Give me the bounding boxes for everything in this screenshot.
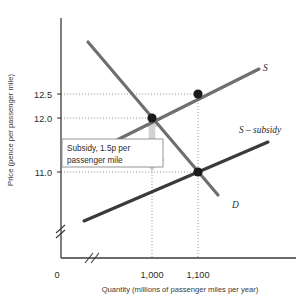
origin-label: 0 <box>54 270 59 280</box>
chart-canvas: 12.5 12.0 11.0 0 1,000 1,100 Quantity (m… <box>0 0 302 298</box>
x-axis-title: Quantity (millions of passenger miles pe… <box>102 285 259 294</box>
curve-label-supply: S <box>263 63 268 73</box>
supply-demand-chart: 12.5 12.0 11.0 0 1,000 1,100 Quantity (m… <box>0 0 302 298</box>
y-axis-title: Price (pence per passenger mile) <box>6 74 15 186</box>
marker-initial-equilibrium <box>147 113 156 122</box>
y-tick-label-11-0: 11.0 <box>35 168 52 178</box>
y-tick-label-12-5: 12.5 <box>34 90 52 100</box>
marker-supply-price-after-subsidy <box>193 89 202 98</box>
subsidy-annotation: Subsidy, 1.5p per passenger mile <box>62 139 164 167</box>
y-tick-label-12-0: 12.0 <box>34 114 52 124</box>
gridlines <box>61 94 198 258</box>
x-tick-label-1000: 1,000 <box>141 270 164 280</box>
curve-label-supply-minus-subsidy: S – subsidy <box>239 125 282 135</box>
x-tick-label-1100: 1,100 <box>187 270 210 280</box>
annotation-line-2: passenger mile <box>67 156 123 165</box>
marker-new-equilibrium <box>193 167 202 176</box>
curve-label-demand: D <box>231 200 239 210</box>
annotation-line-1: Subsidy, 1.5p per <box>67 144 130 153</box>
